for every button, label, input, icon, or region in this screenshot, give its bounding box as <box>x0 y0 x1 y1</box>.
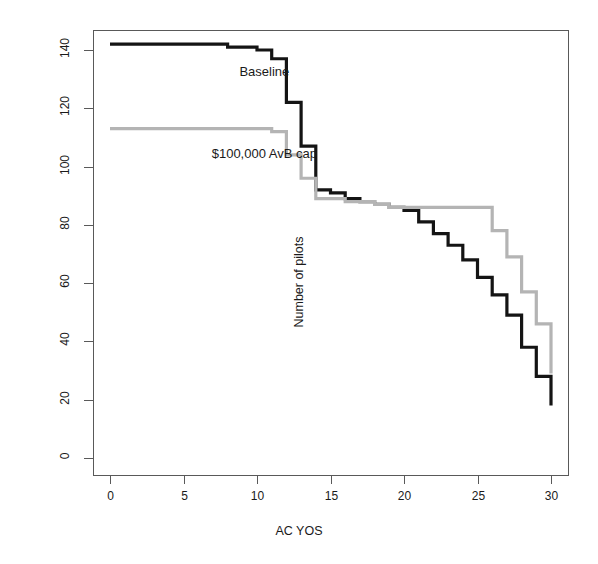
series-label-avb-cap: $100,000 AvB cap <box>189 146 339 161</box>
y-tick-label: 60 <box>58 267 72 295</box>
x-tick-label: 10 <box>228 489 288 503</box>
y-tick-label: 20 <box>58 384 72 412</box>
chart-plot-area <box>0 0 598 564</box>
y-tick-label: 80 <box>58 209 72 237</box>
y-tick-label: 40 <box>58 325 72 353</box>
y-axis-ticks <box>84 51 93 459</box>
y-tick-label: 140 <box>58 34 72 62</box>
y-tick-label: 120 <box>58 92 72 120</box>
x-tick-label: 5 <box>155 489 215 503</box>
x-tick-label: 20 <box>375 489 435 503</box>
x-tick-label: 25 <box>449 489 509 503</box>
y-tick-label: 0 <box>58 442 72 470</box>
plot-frame <box>94 31 569 476</box>
x-tick-label: 0 <box>81 489 141 503</box>
data-series-layer <box>110 44 551 405</box>
x-tick-label: 30 <box>522 489 582 503</box>
series-label-baseline: Baseline <box>189 64 339 79</box>
chart-container: Number of pilots AC YOS 0510152025300204… <box>0 0 598 564</box>
y-tick-label: 100 <box>58 151 72 179</box>
x-tick-label: 15 <box>302 489 362 503</box>
x-axis-ticks <box>111 475 552 484</box>
